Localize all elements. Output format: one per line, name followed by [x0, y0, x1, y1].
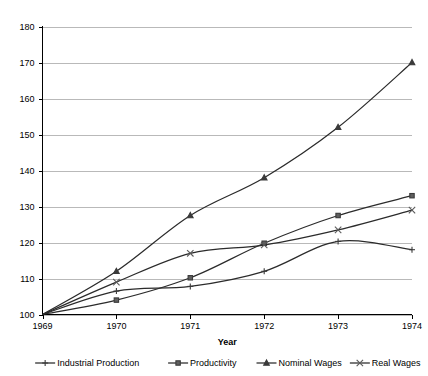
legend-item-nominal-wages[interactable]: Nominal Wages	[257, 358, 343, 368]
x-tick-label-1974: 1974	[402, 321, 422, 331]
series-marker-productivity-1973	[336, 213, 340, 217]
x-axis-title: Year	[218, 337, 238, 347]
x-tick-label-1971: 1971	[180, 321, 200, 331]
x-tick-label-1973: 1973	[328, 321, 348, 331]
legend-label-industrial-production: Industrial Production	[57, 358, 139, 368]
legend-label-nominal-wages: Nominal Wages	[279, 358, 343, 368]
series-marker-productivity-1971	[188, 276, 192, 280]
x-axis-tick-labels: 196919701971197219731974	[32, 321, 422, 331]
y-tick-label-120: 120	[19, 238, 34, 248]
series-marker-nominal-wages-1970	[114, 268, 120, 273]
x-tick-label-1972: 1972	[254, 321, 274, 331]
legend-label-real-wages: Real Wages	[372, 358, 421, 368]
series-nominal-wages	[43, 60, 415, 315]
series-line-nominal-wages	[43, 63, 413, 315]
legend-item-productivity[interactable]: Productivity	[168, 358, 237, 368]
chart-legend: Industrial ProductionProductivityNominal…	[35, 358, 421, 368]
series-productivity	[43, 194, 415, 315]
y-tick-label-140: 140	[19, 166, 34, 176]
legend-item-real-wages[interactable]: Real Wages	[350, 358, 421, 368]
chart-container: 100110120130140150160170180 196919701971…	[0, 0, 428, 376]
y-tick-label-180: 180	[19, 22, 34, 32]
legend-item-industrial-production[interactable]: Industrial Production	[35, 358, 139, 368]
series-marker-productivity-1974	[410, 194, 414, 198]
y-tick-label-160: 160	[19, 94, 34, 104]
axes-group	[39, 26, 413, 319]
series-marker-productivity-1970	[114, 298, 118, 302]
series-industrial-production	[43, 238, 416, 314]
series-marker-nominal-wages-1972	[261, 175, 267, 180]
series-marker-nominal-wages-1971	[188, 213, 194, 218]
y-tick-label-100: 100	[19, 310, 34, 320]
y-tick-label-110: 110	[20, 274, 34, 284]
legend-label-productivity: Productivity	[190, 358, 237, 368]
x-tick-label-1969: 1969	[32, 321, 52, 331]
series-line-productivity	[43, 196, 413, 315]
y-tick-label-170: 170	[19, 58, 34, 68]
y-tick-label-130: 130	[19, 202, 34, 212]
x-tick-label-1970: 1970	[106, 321, 126, 331]
series-line-real-wages	[43, 210, 413, 314]
series-group	[43, 60, 416, 315]
legend-marker-productivity	[176, 361, 180, 365]
y-tick-label-150: 150	[19, 130, 34, 140]
line-chart: 100110120130140150160170180 196919701971…	[0, 0, 428, 376]
legend-marker-nominal-wages	[264, 360, 270, 365]
gridlines-group	[43, 28, 413, 316]
series-line-industrial-production	[43, 241, 413, 315]
series-marker-nominal-wages-1974	[409, 60, 415, 65]
y-axis-tick-labels: 100110120130140150160170180	[19, 22, 34, 320]
